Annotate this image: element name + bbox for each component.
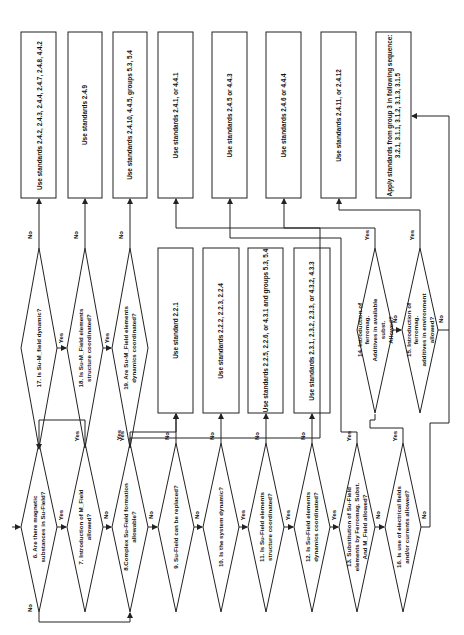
decision-15-label: 14. Introduction of ferromag. Additives … — [362, 290, 388, 370]
flowchart-canvas: Use standards 2.4.2, 2.4.3, 2.4.4, 2.4.7… — [0, 0, 464, 635]
decision-17-label: 17. Is Su-M_field dynamic? — [29, 298, 49, 398]
no-label: No — [148, 511, 154, 519]
yes-label: Yes — [58, 510, 64, 520]
decision-14-label: 16. Is use of electrical fields and/or c… — [388, 482, 418, 572]
no-label: No — [164, 432, 170, 440]
box-t3-label: Use standards 2.4.10, 4.4.5, groups 5.3,… — [113, 32, 147, 198]
no-label: No — [375, 511, 381, 519]
decision-19-label: 19. Are Su-M_Field elements dynamics coo… — [120, 298, 140, 398]
decision-6-label: 6. Are there magnetic substances in Su-F… — [27, 482, 51, 572]
no-label: No — [118, 231, 124, 239]
no-label: No — [421, 511, 427, 519]
box-t1-label: Use standards 2.4.2, 2.4.3, 2.4.4, 2.4.7… — [22, 33, 57, 199]
decision-16-label: 15. Introduction of ferromag. additives … — [407, 290, 433, 370]
decision-8-label: 8.Complex Su-Field formation allowable? — [118, 482, 142, 572]
no-label: No — [73, 231, 79, 239]
yes-label: Yes — [364, 230, 370, 240]
no-label: No — [194, 511, 200, 519]
no-label: No — [254, 432, 260, 440]
yes-label: Yes — [285, 510, 291, 520]
decision-7-label: 7. Introduction of M_Field allowed? — [73, 482, 97, 572]
decision-9-label: 9. Su-Field can be replaced? — [164, 482, 188, 572]
decision-12-label: 12. Is Su-Field elements dynamics coordi… — [300, 482, 324, 572]
box-t5-label: Use standards 2.4.5 or 4.4.3 — [212, 33, 247, 199]
decision-18-label: 18. Is Su-M_Field elements structure coo… — [75, 298, 95, 398]
decision-11-label: 11. Is Su-Field elements structure coord… — [254, 482, 278, 572]
box-m3-label: Use standards 2.2.5, 2.2.6, or 4.3.1 and… — [248, 248, 283, 413]
no-label: No — [27, 231, 33, 239]
box-t8-label: Apply standards from group 3 in followin… — [376, 33, 411, 199]
box-m4-label: Use standards 2.3.1, 2.3.2, 2.3.3, or 4.… — [294, 249, 330, 414]
decision-10-label: 10. Is the system dynamic? — [209, 482, 233, 572]
yes-label: Yes — [331, 510, 337, 520]
no-label: No — [438, 315, 444, 323]
no-label: No — [103, 511, 109, 519]
yes-label: Yes — [104, 333, 110, 343]
no-label: No — [392, 315, 398, 323]
no-label: No — [300, 432, 306, 440]
box-m1-label: Use standard 2.2.1 — [158, 248, 193, 413]
yes-label: Yes — [119, 431, 125, 441]
box-t6-label: Use standards 2.4.6 or 4.4.4 — [266, 33, 301, 199]
yes-label: Yes — [346, 431, 352, 441]
yes-label: Yes — [58, 333, 64, 343]
box-t2-label: Use standards 2.4.9 — [68, 32, 102, 198]
box-m2-label: Use standards 2.2.2, 2.2.3, 2.2.4 — [203, 249, 239, 414]
no-label: No — [209, 432, 215, 440]
box-t7-label: Use standards 2.4.11, or 2.4.12 — [321, 33, 356, 199]
yes-label: Yes — [392, 431, 398, 441]
box-t4-label: Use standards 2.4.1, or 4.4.1 — [158, 33, 193, 199]
decision-13-label: 13. Substitution of Su-Field elements by… — [342, 482, 372, 572]
no-label: No — [27, 604, 33, 612]
yes-label: Yes — [240, 510, 246, 520]
yes-label: Yes — [409, 230, 415, 240]
yes-label: Yes — [74, 431, 80, 441]
